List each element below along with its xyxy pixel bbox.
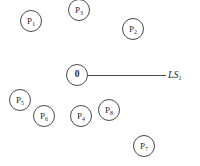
ls1-edge — [88, 75, 166, 76]
node-p5[interactable]: P5 — [9, 89, 31, 111]
node-p3-label: P3 — [75, 6, 83, 15]
node-p8-label: P8 — [105, 106, 113, 115]
origin-node[interactable]: 0 — [66, 64, 88, 86]
node-p1-label: P1 — [27, 17, 35, 26]
node-p4[interactable]: P4 — [70, 105, 92, 127]
node-p2-label: P2 — [129, 25, 137, 34]
diagram-canvas: P1 P3 P2 P5 P6 P4 P8 P7 0 LS1 — [0, 0, 200, 166]
node-p2[interactable]: P2 — [122, 18, 144, 40]
node-p5-label: P5 — [16, 96, 24, 105]
node-p7-label: P7 — [140, 142, 148, 151]
origin-node-label: 0 — [75, 70, 80, 80]
ls1-label: LS1 — [168, 69, 182, 80]
node-p6[interactable]: P6 — [33, 105, 55, 127]
node-p7[interactable]: P7 — [133, 135, 155, 157]
node-p1[interactable]: P1 — [20, 10, 42, 32]
node-p8[interactable]: P8 — [98, 99, 120, 121]
node-p3[interactable]: P3 — [68, 0, 90, 21]
node-p4-label: P4 — [77, 112, 85, 121]
node-p6-label: P6 — [40, 112, 48, 121]
